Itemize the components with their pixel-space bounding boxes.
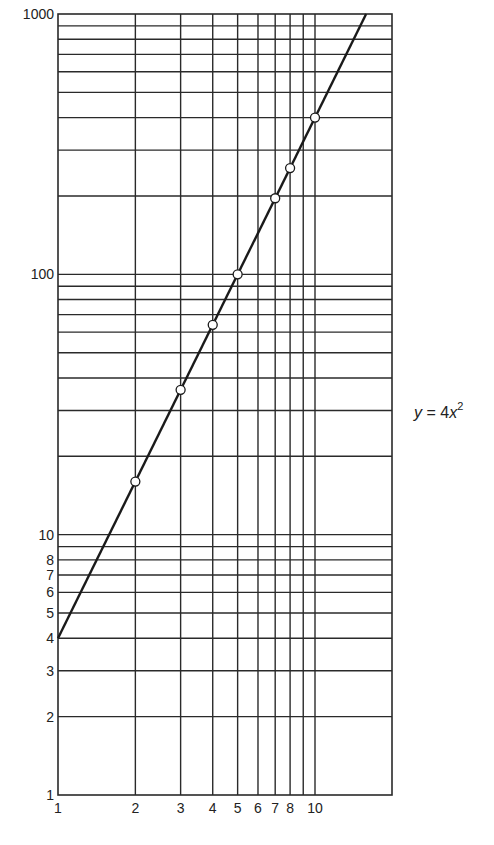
x-tick-label: 8 — [286, 800, 294, 816]
x-tick-label: 1 — [54, 800, 62, 816]
y-tick-label: 3 — [46, 663, 54, 679]
data-point-marker — [271, 194, 280, 203]
data-point-marker — [176, 385, 185, 394]
x-tick-label: 2 — [131, 800, 139, 816]
log-log-chart: 12345678101001000 1234567810 — [0, 0, 494, 845]
data-point-marker — [286, 164, 295, 173]
y-tick-label: 2 — [46, 709, 54, 725]
x-tick-label: 5 — [234, 800, 242, 816]
y-axis-tick-labels: 12345678101001000 — [23, 6, 54, 803]
y-tick-label: 8 — [46, 552, 54, 568]
y-tick-label: 4 — [46, 630, 54, 646]
y-tick-label: 7 — [46, 567, 54, 583]
x-tick-label: 10 — [307, 800, 323, 816]
grid-lines — [58, 14, 392, 795]
equation-annotation: y = 4x2 — [414, 402, 463, 422]
eq-var-x: x — [449, 404, 457, 421]
y-tick-label: 100 — [31, 266, 55, 282]
eq-equals: = 4 — [422, 404, 449, 421]
data-point-marker — [311, 113, 320, 122]
y-tick-label: 1 — [46, 787, 54, 803]
eq-var-y: y — [414, 404, 422, 421]
eq-exponent: 2 — [457, 400, 463, 412]
data-point-marker — [208, 320, 217, 329]
x-tick-label: 4 — [209, 800, 217, 816]
x-tick-label: 7 — [271, 800, 279, 816]
y-tick-label: 10 — [38, 527, 54, 543]
x-tick-label: 6 — [254, 800, 262, 816]
data-point-marker — [233, 270, 242, 279]
y-tick-label: 1000 — [23, 6, 54, 22]
x-tick-label: 3 — [177, 800, 185, 816]
data-point-marker — [131, 477, 140, 486]
x-axis-tick-labels: 1234567810 — [54, 800, 323, 816]
y-tick-label: 6 — [46, 584, 54, 600]
y-tick-label: 5 — [46, 605, 54, 621]
plot-frame — [58, 14, 392, 795]
